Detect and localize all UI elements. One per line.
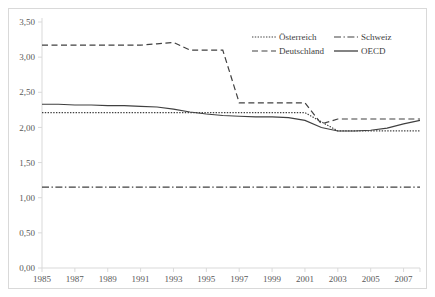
- x-tick-label: 1995: [197, 274, 216, 284]
- x-tick-label: 1989: [99, 274, 118, 284]
- y-tick-label: 3,00: [19, 52, 35, 62]
- legend-label-oecd: OECD: [361, 46, 386, 56]
- line-chart: 0,000,501,001,502,002,503,003,50 1985198…: [0, 0, 435, 297]
- y-tick-label: 1,00: [19, 193, 35, 203]
- x-tick-label: 2003: [329, 274, 348, 284]
- x-tick-label: 2001: [296, 274, 314, 284]
- series-line-oecd: [42, 104, 420, 131]
- x-tick-label: 1987: [66, 274, 85, 284]
- legend-label-sterreich: Österreich: [279, 32, 317, 42]
- y-tick-label: 0,50: [19, 228, 35, 238]
- x-tick-label: 1997: [230, 274, 249, 284]
- y-tick-label: 3,50: [19, 17, 35, 27]
- x-axis: 1985198719891991199319951997199920012003…: [33, 268, 420, 284]
- legend-label-schweiz: Schweiz: [361, 32, 392, 42]
- x-tick-label: 1985: [33, 274, 52, 284]
- plot-wrapper: 0,000,501,001,502,002,503,003,50 1985198…: [0, 0, 435, 297]
- x-tick-label: 1999: [263, 274, 282, 284]
- x-tick-label: 1993: [164, 274, 183, 284]
- legend-label-deutschland: Deutschland: [279, 46, 324, 56]
- y-tick-label: 2,50: [19, 87, 35, 97]
- chart-legend: ÖsterreichSchweizDeutschlandOECD: [252, 32, 392, 56]
- x-tick-label: 2005: [362, 274, 381, 284]
- x-tick-label: 2007: [395, 274, 414, 284]
- series-lines: [42, 42, 420, 187]
- chart-figure: 0,000,501,001,502,002,503,003,50 1985198…: [0, 0, 435, 297]
- y-axis: 0,000,501,001,502,002,503,003,50: [19, 17, 42, 273]
- x-tick-label: 1991: [132, 274, 150, 284]
- y-tick-label: 0,00: [19, 263, 35, 273]
- y-tick-label: 2,00: [19, 123, 35, 133]
- y-tick-label: 1,50: [19, 158, 35, 168]
